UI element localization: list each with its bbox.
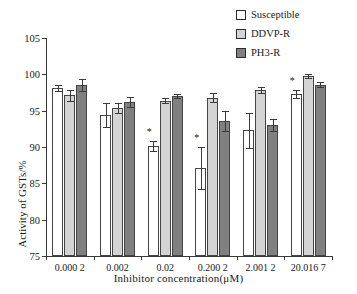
error-cap-lower: [162, 103, 169, 104]
error-bar: [213, 93, 214, 102]
error-cap-upper: [305, 74, 312, 75]
light-gray-swatch-icon: [236, 29, 246, 39]
error-cap-lower: [258, 93, 265, 94]
x-tick: [94, 256, 95, 260]
error-cap-lower: [305, 78, 312, 79]
bar-ddvp-r: [160, 101, 171, 257]
error-cap-lower: [198, 189, 205, 190]
bar-ddvp-r: [207, 98, 218, 256]
error-cap-lower: [55, 91, 62, 92]
bar-susceptible: [291, 94, 302, 256]
bar-group: [243, 38, 278, 256]
error-bar: [130, 97, 131, 107]
error-cap-lower: [270, 131, 277, 132]
y-tick-label: 90: [30, 142, 41, 153]
error-cap-upper: [317, 82, 324, 83]
legend-item-susceptible: Susceptible: [236, 6, 354, 23]
error-cap-upper: [174, 94, 181, 95]
y-tick: [42, 147, 46, 148]
error-cap-lower: [293, 98, 300, 99]
x-tick: [189, 256, 190, 260]
error-cap-upper: [222, 111, 229, 112]
bar-susceptible: [243, 130, 254, 256]
bar-group: [52, 38, 87, 256]
bar-ph3-r: [172, 96, 183, 256]
bar-ph3-r: [76, 85, 87, 256]
error-cap-upper: [293, 90, 300, 91]
error-cap-upper: [162, 98, 169, 99]
bar-susceptible: [52, 88, 63, 256]
y-tick-label: 80: [30, 214, 41, 225]
error-bar: [273, 119, 274, 131]
legend-label-susceptible: Susceptible: [251, 9, 299, 20]
error-cap-lower: [174, 98, 181, 99]
gst-activity-bar-chart: Susceptible DDVP-R PH3-R Activity of GST…: [0, 0, 357, 294]
significance-asterisk: *: [194, 134, 199, 142]
error-cap-lower: [115, 113, 122, 114]
bar-ph3-r: [267, 125, 278, 256]
bar-ph3-r: [219, 121, 230, 256]
error-cap-lower: [246, 148, 253, 149]
x-tick: [237, 256, 238, 260]
bar-ph3-r: [124, 102, 135, 256]
white-swatch-icon: [236, 10, 246, 20]
x-tick: [332, 256, 333, 260]
error-cap-upper: [115, 103, 122, 104]
y-tick: [42, 183, 46, 184]
error-cap-upper: [210, 93, 217, 94]
bar-susceptible: [148, 146, 159, 256]
error-cap-lower: [210, 102, 217, 103]
error-cap-lower: [150, 151, 157, 152]
error-bar: [106, 103, 107, 128]
error-cap-upper: [198, 147, 205, 148]
x-tick: [284, 256, 285, 260]
error-cap-upper: [103, 103, 110, 104]
bar-ddvp-r: [112, 108, 123, 256]
bar-group: *: [291, 38, 326, 256]
error-cap-lower: [127, 107, 134, 108]
y-tick-label: 105: [24, 33, 40, 44]
error-bar: [201, 147, 202, 189]
error-bar: [153, 141, 154, 151]
bar-group: *: [195, 38, 230, 256]
error-cap-upper: [258, 87, 265, 88]
x-tick: [46, 256, 47, 260]
y-tick: [42, 111, 46, 112]
error-cap-upper: [79, 79, 86, 80]
y-tick-label: 95: [30, 105, 41, 116]
error-cap-lower: [79, 91, 86, 92]
y-axis-title-wrap: Activity of GSTs/%: [14, 90, 28, 210]
error-cap-lower: [67, 101, 74, 102]
y-tick: [42, 38, 46, 39]
error-cap-lower: [103, 127, 110, 128]
error-cap-lower: [222, 131, 229, 132]
error-cap-upper: [127, 97, 134, 98]
error-bar: [118, 103, 119, 113]
y-tick-label: 100: [24, 69, 40, 80]
error-bar: [225, 111, 226, 131]
error-bar: [249, 113, 250, 148]
bar-ph3-r: [315, 85, 326, 256]
bar-ddvp-r: [255, 90, 266, 256]
error-cap-upper: [270, 119, 277, 120]
bar-group: [100, 38, 135, 256]
error-cap-upper: [246, 113, 253, 114]
bar-susceptible: [100, 115, 111, 256]
y-tick-label: 75: [30, 251, 41, 262]
error-bar: [296, 90, 297, 97]
plot-area: 7580859095100105 0.000 20.0020.020.200 2…: [46, 38, 332, 257]
x-axis-title: Inhibitor concentration(μM): [0, 272, 357, 284]
bar-ddvp-r: [64, 95, 75, 256]
error-bar: [82, 79, 83, 91]
bar-group: *: [148, 38, 183, 256]
error-bar: [70, 90, 71, 102]
y-tick: [42, 220, 46, 221]
error-cap-upper: [55, 85, 62, 86]
error-cap-lower: [317, 87, 324, 88]
y-axis-title: Activity of GSTs/%: [16, 144, 28, 264]
y-tick-label: 85: [30, 178, 41, 189]
error-cap-upper: [150, 141, 157, 142]
x-tick: [141, 256, 142, 260]
y-axis-line: [46, 38, 47, 257]
error-cap-upper: [67, 90, 74, 91]
